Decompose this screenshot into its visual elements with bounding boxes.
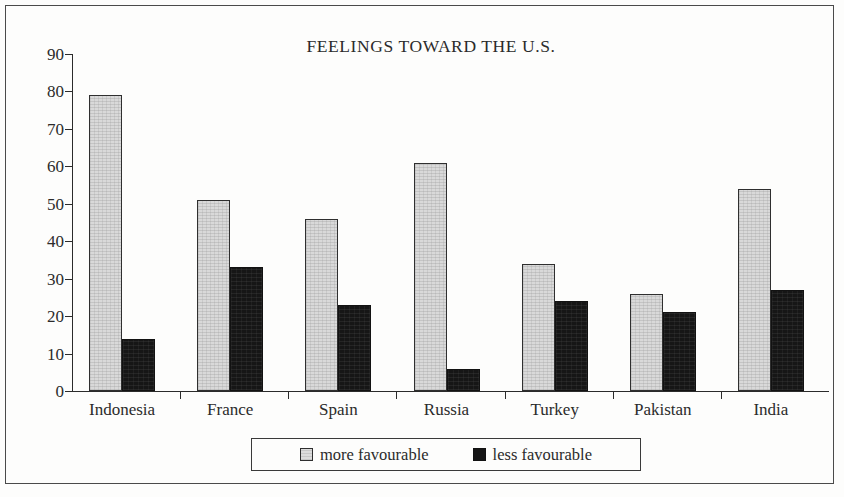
bar-more-favourable: [738, 189, 771, 391]
x-axis-tick: [613, 391, 614, 399]
x-axis-tick: [721, 391, 722, 399]
x-axis-tick: [396, 391, 397, 399]
legend-item-more-favourable: more favourable: [300, 445, 429, 465]
y-axis-tick: [65, 166, 72, 167]
legend-item-less-favourable: less favourable: [473, 445, 592, 465]
y-axis: [72, 54, 73, 391]
y-axis-tick: [65, 54, 72, 55]
bar-group: [414, 54, 480, 391]
figure: FEELINGS TOWARD THE U.S. 010203040506070…: [0, 0, 844, 497]
category-label-turkey: Turkey: [530, 400, 579, 420]
dark-square-swatch: [473, 448, 486, 461]
x-axis-tick: [180, 391, 181, 399]
bar-group: [89, 54, 155, 391]
y-axis-tick-label: 30: [20, 270, 64, 287]
y-axis-tick: [65, 354, 72, 355]
bar-less-favourable: [663, 312, 696, 391]
bar-less-favourable: [230, 267, 263, 391]
bar-more-favourable: [89, 95, 122, 391]
x-axis-tick: [288, 391, 289, 399]
x-axis: [72, 391, 829, 392]
y-axis-tick: [65, 316, 72, 317]
chart-legend: more favourableless favourable: [251, 438, 641, 471]
y-axis-tick: [65, 241, 72, 242]
bar-less-favourable: [555, 301, 588, 391]
bar-group: [522, 54, 588, 391]
bar-more-favourable: [414, 163, 447, 391]
bar-more-favourable: [305, 219, 338, 391]
bar-less-favourable: [338, 305, 371, 391]
y-axis-tick-label: 90: [20, 46, 64, 63]
bar-group: [305, 54, 371, 391]
figure-frame: FEELINGS TOWARD THE U.S. 010203040506070…: [5, 5, 834, 484]
light-square-swatch: [300, 448, 313, 461]
y-axis-tick-label: 80: [20, 83, 64, 100]
bar-less-favourable: [122, 339, 155, 391]
y-axis-tick-label: 70: [20, 120, 64, 137]
y-axis-tick-label: 40: [20, 233, 64, 250]
y-axis-tick-label: 50: [20, 195, 64, 212]
bar-more-favourable: [522, 264, 555, 391]
y-axis-tick-label: 0: [20, 383, 64, 400]
y-axis-tick-label: 20: [20, 308, 64, 325]
category-label-spain: Spain: [319, 400, 358, 420]
bar-less-favourable: [447, 369, 480, 391]
bar-group: [197, 54, 263, 391]
y-axis-tick: [65, 279, 72, 280]
y-axis-tick: [65, 91, 72, 92]
plot-area: 0102030405060708090 IndonesiaFranceSpain…: [72, 54, 829, 391]
y-axis-tick: [65, 204, 72, 205]
legend-label: more favourable: [320, 445, 429, 465]
y-axis-tick: [65, 391, 72, 392]
bar-more-favourable: [630, 294, 663, 391]
bar-less-favourable: [771, 290, 804, 391]
category-label-india: India: [753, 400, 788, 420]
y-axis-tick: [65, 129, 72, 130]
y-axis-tick-label: 10: [20, 345, 64, 362]
legend-label: less favourable: [493, 445, 592, 465]
bar-group: [630, 54, 696, 391]
category-label-russia: Russia: [424, 400, 469, 420]
category-label-pakistan: Pakistan: [634, 400, 692, 420]
category-label-indonesia: Indonesia: [89, 400, 155, 420]
bar-group: [738, 54, 804, 391]
category-label-france: France: [207, 400, 253, 420]
bar-more-favourable: [197, 200, 230, 391]
x-axis-tick: [505, 391, 506, 399]
y-axis-tick-label: 60: [20, 158, 64, 175]
